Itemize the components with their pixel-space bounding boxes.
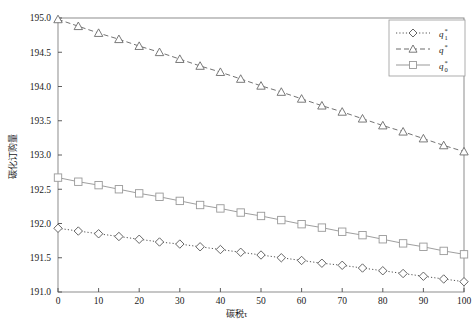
data-marker-square bbox=[409, 61, 416, 68]
data-marker-square bbox=[440, 247, 447, 254]
x-tick-label: 40 bbox=[216, 296, 226, 306]
data-marker-square bbox=[359, 231, 366, 238]
x-tick-label: 10 bbox=[94, 296, 104, 306]
data-marker-square bbox=[217, 205, 224, 212]
legend-label-q1star: q bbox=[439, 29, 444, 39]
data-marker-square bbox=[278, 216, 285, 223]
data-marker-square bbox=[176, 197, 183, 204]
y-tick-label: 192.0 bbox=[30, 219, 52, 229]
y-tick-label: 191.5 bbox=[30, 253, 52, 263]
data-marker-square bbox=[298, 220, 305, 227]
legend-sub-q0star: 0 bbox=[445, 66, 448, 73]
legend-sup-q0star: * bbox=[445, 59, 448, 66]
legend-label-q0star: q bbox=[439, 61, 444, 71]
data-marker-square bbox=[420, 243, 427, 250]
data-marker-square bbox=[399, 240, 406, 247]
x-axis-label: 碳税τ bbox=[0, 307, 473, 320]
x-tick-label: 70 bbox=[337, 296, 347, 306]
legend-sup-q1star: * bbox=[445, 27, 448, 34]
x-tick-label: 90 bbox=[419, 296, 429, 306]
legend-sup-qstar: * bbox=[445, 43, 448, 50]
data-marker-square bbox=[460, 251, 467, 258]
x-tick-label: 30 bbox=[175, 296, 185, 306]
y-tick-label: 195.0 bbox=[30, 13, 52, 23]
legend-label-qstar: q bbox=[439, 45, 444, 55]
x-tick-label: 100 bbox=[457, 296, 472, 306]
data-marker-square bbox=[115, 186, 122, 193]
data-marker-square bbox=[95, 181, 102, 188]
data-marker-square bbox=[54, 174, 61, 181]
legend-sub-q1star: 1 bbox=[445, 34, 448, 41]
legend: q1*q*q0* bbox=[389, 20, 465, 76]
x-tick-label: 60 bbox=[297, 296, 307, 306]
x-tick-label: 0 bbox=[56, 296, 61, 306]
legend-box bbox=[389, 20, 465, 76]
x-tick-label: 80 bbox=[378, 296, 388, 306]
data-marker-square bbox=[318, 224, 325, 231]
chart-canvas: 191.0191.5192.0192.5193.0193.5194.0194.5… bbox=[0, 0, 473, 336]
data-marker-square bbox=[196, 201, 203, 208]
x-tick-label: 20 bbox=[134, 296, 144, 306]
data-marker-square bbox=[339, 228, 346, 235]
y-tick-label: 194.0 bbox=[30, 82, 52, 92]
y-tick-label: 192.5 bbox=[30, 185, 52, 195]
y-tick-label: 193.0 bbox=[30, 150, 52, 160]
y-tick-label: 194.5 bbox=[30, 48, 52, 58]
y-tick-label: 191.0 bbox=[30, 287, 52, 297]
chart-figure: 191.0191.5192.0192.5193.0193.5194.0194.5… bbox=[0, 0, 473, 336]
data-marker-square bbox=[75, 178, 82, 185]
y-tick-label: 193.5 bbox=[30, 116, 52, 126]
x-tick-label: 50 bbox=[256, 296, 266, 306]
data-marker-square bbox=[257, 212, 264, 219]
data-marker-square bbox=[237, 209, 244, 216]
data-marker-square bbox=[379, 236, 386, 243]
figure-caption bbox=[0, 326, 473, 336]
y-axis-label: 碳化订购量 bbox=[6, 121, 19, 193]
data-marker-square bbox=[156, 193, 163, 200]
data-marker-square bbox=[136, 190, 143, 197]
